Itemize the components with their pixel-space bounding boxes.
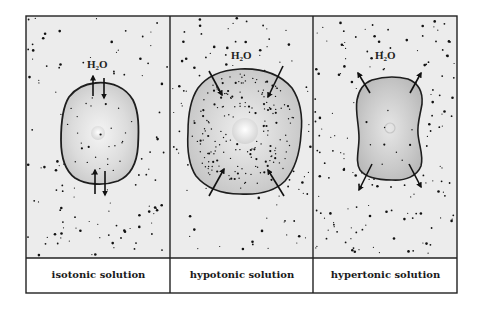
water-label-hypertonic: H2O: [375, 49, 396, 65]
hypertonic-cell: [356, 77, 422, 180]
isotonic-cell: [61, 83, 138, 184]
caption-hypotonic: hypotonic solution: [171, 269, 313, 281]
hypotonic-cell: [188, 69, 302, 194]
water-label-hypotonic: H2O: [231, 49, 252, 65]
nucleus: [91, 126, 105, 140]
water-label-isotonic: H2O: [87, 58, 108, 74]
cell-membrane: [356, 77, 422, 180]
nucleus: [232, 118, 258, 144]
diagram-canvas: [0, 0, 482, 310]
osmosis-diagram: H2O H2O H2O isotonic solution hypotonic …: [0, 0, 482, 310]
caption-hypertonic: hypertonic solution: [314, 269, 457, 281]
caption-isotonic: isotonic solution: [27, 269, 170, 281]
